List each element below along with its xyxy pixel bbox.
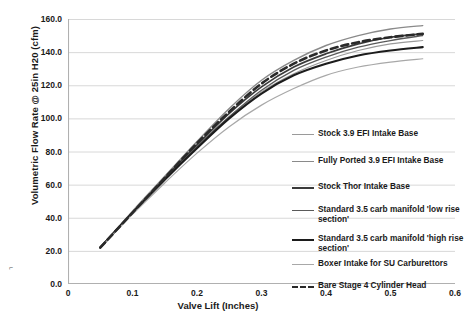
legend-swatch-icon-0	[292, 128, 314, 140]
legend-swatch-icon-2	[292, 181, 314, 193]
y-tick-80.0: 80.0	[22, 148, 62, 156]
chart-legend: Stock 3.9 EFI Intake BaseFully Ported 3.…	[292, 128, 473, 298]
x-tick-0: 0	[53, 288, 83, 298]
x-tick-0.2: 0.2	[182, 288, 212, 298]
x-axis-title: Valve Lift (Inches)	[68, 300, 368, 311]
legend-item-6[interactable]: Bare Stage 4 Cylinder Head	[292, 280, 473, 292]
legend-item-4[interactable]: Standard 3.5 carb manifold 'high rise se…	[292, 233, 473, 253]
y-tick-120.0: 120.0	[22, 81, 62, 89]
legend-item-1[interactable]: Fully Ported 3.9 EFI Intake Base	[292, 155, 473, 167]
legend-label-1: Fully Ported 3.9 EFI Intake Base	[318, 155, 443, 166]
legend-swatch-icon-1	[292, 155, 314, 167]
y-tick-0.0: 0.0	[22, 280, 62, 288]
legend-swatch-icon-3	[292, 204, 314, 216]
x-tick-0.3: 0.3	[247, 288, 277, 298]
legend-label-4: Standard 3.5 carb manifold 'high rise se…	[318, 233, 473, 253]
chart-container: Volumetric Flow Rate @ 25in H20 (cfm) Va…	[0, 0, 473, 328]
legend-label-6: Bare Stage 4 Cylinder Head	[318, 280, 426, 291]
edge-artifact-mark: ⌐	[9, 264, 13, 271]
legend-item-0[interactable]: Stock 3.9 EFI Intake Base	[292, 128, 473, 140]
legend-item-5[interactable]: Boxer Intake for SU Carburettors	[292, 258, 473, 270]
x-tick-0.1: 0.1	[118, 288, 148, 298]
y-tick-160.0: 160.0	[22, 15, 62, 23]
y-tick-100.0: 100.0	[22, 114, 62, 122]
y-tick-40.0: 40.0	[22, 214, 62, 222]
legend-item-2[interactable]: Stock Thor Intake Base	[292, 181, 473, 193]
legend-swatch-icon-4	[292, 233, 314, 245]
legend-label-2: Stock Thor Intake Base	[318, 181, 410, 192]
y-axis-title: Volumetric Flow Rate @ 25in H20 (cfm)	[29, 0, 40, 246]
legend-label-3: Standard 3.5 carb manifold 'low rise sec…	[318, 204, 473, 224]
y-tick-60.0: 60.0	[22, 181, 62, 189]
y-tick-20.0: 20.0	[22, 247, 62, 255]
legend-label-5: Boxer Intake for SU Carburettors	[318, 258, 448, 269]
legend-swatch-icon-6	[292, 280, 314, 292]
legend-label-0: Stock 3.9 EFI Intake Base	[318, 128, 418, 139]
y-tick-140.0: 140.0	[22, 48, 62, 56]
legend-swatch-icon-5	[292, 258, 314, 270]
legend-item-3[interactable]: Standard 3.5 carb manifold 'low rise sec…	[292, 204, 473, 224]
